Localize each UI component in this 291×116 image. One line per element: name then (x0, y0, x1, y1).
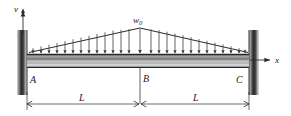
vertical-axis-label: v (14, 4, 18, 14)
right-fixed-support (249, 30, 259, 95)
dimension-label-left-span: L (78, 92, 85, 103)
horizontal-axis-label: x (274, 55, 279, 65)
load-arrowheads (31, 50, 246, 54)
left-fixed-support (17, 30, 27, 95)
beam (27, 54, 249, 68)
diagram-canvas: v x (0, 0, 291, 116)
dimension-label-right-span: L (192, 92, 199, 103)
vertical-axis-arrowhead (21, 9, 25, 13)
node-label-c: C (236, 74, 243, 85)
node-label-a: A (29, 74, 37, 85)
node-label-b: B (143, 73, 149, 84)
load-arrows (33, 29, 245, 53)
dimension-extension-lines (27, 92, 249, 110)
beam-diagram-figure: v x (0, 0, 291, 116)
load-magnitude-label: w0 (133, 15, 143, 26)
